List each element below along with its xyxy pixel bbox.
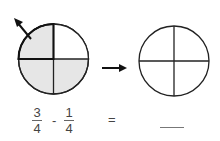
numerator: 3	[32, 106, 42, 119]
answer-blank	[160, 127, 184, 128]
minus-sign: -	[52, 113, 56, 128]
fraction-three-fourths: 3 4	[32, 106, 42, 135]
denominator: 4	[64, 122, 74, 135]
right-circle	[139, 26, 209, 96]
equals-sign: =	[108, 112, 116, 127]
denominator: 4	[32, 122, 42, 135]
left-circle	[19, 24, 89, 94]
remove-arrow-icon	[14, 18, 31, 39]
right-arrow-icon	[102, 64, 127, 72]
numerator: 1	[64, 106, 74, 119]
fraction-one-fourth: 1 4	[64, 106, 74, 135]
